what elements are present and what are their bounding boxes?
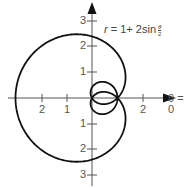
equation-rhs: 1+ 2sin (120, 23, 156, 35)
equation-fraction: θ2 (158, 24, 161, 37)
vertical-axis-arrow-icon (88, 2, 97, 14)
equation-equals: = (111, 23, 117, 35)
y-tick-label: 3 (80, 15, 86, 26)
y-tick-label: 1 (80, 66, 86, 77)
y-tick-label: 3 (80, 169, 86, 180)
x-tick-label: 1 (64, 104, 70, 115)
x-tick-label: 2 (39, 104, 45, 115)
y-tick-label: 1 (80, 118, 86, 129)
polar-axis-label: θ = 0 (168, 93, 185, 115)
y-tick-label: 2 (80, 40, 86, 51)
equation-label: r = 1+ 2sinθ2 (104, 24, 161, 37)
x-tick-label: 2 (140, 104, 146, 115)
equation-lhs: r (104, 23, 108, 35)
y-tick-label: 2 (80, 143, 86, 154)
